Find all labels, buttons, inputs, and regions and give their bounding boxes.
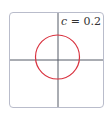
equals-sign: = [71, 15, 80, 28]
parameter-label: c = 0.2 [61, 15, 101, 28]
parameter-value: 0.2 [84, 15, 102, 28]
parameter-name: c [61, 15, 67, 28]
